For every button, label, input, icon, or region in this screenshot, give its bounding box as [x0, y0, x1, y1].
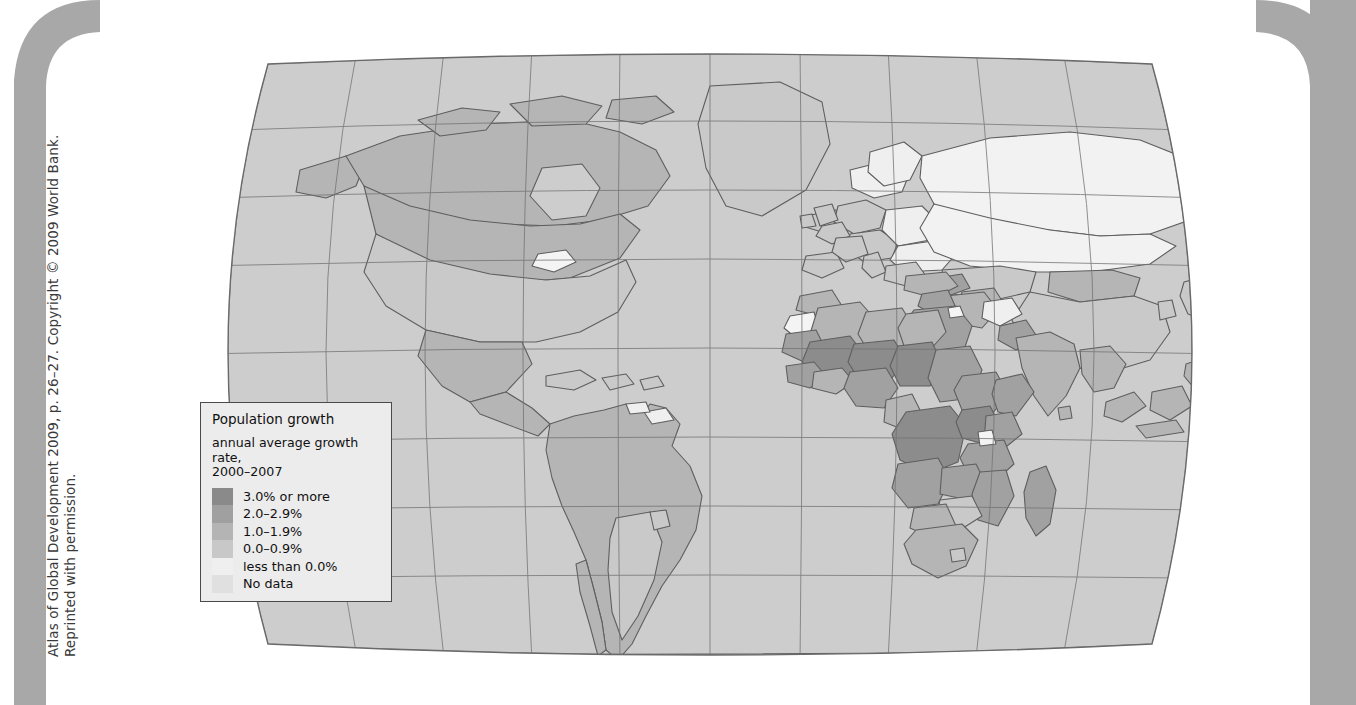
legend-entry: No data: [212, 575, 381, 593]
legend-subtitle-line1: annual average growth rate,: [212, 435, 358, 465]
legend-subtitle: annual average growth rate, 2000–2007: [212, 436, 381, 480]
legend-entry: 3.0% or more: [212, 488, 381, 506]
legend-label: 2.0–2.9%: [243, 505, 302, 523]
legend-swatch: [212, 575, 233, 593]
legend-label: 1.0–1.9%: [243, 523, 302, 541]
frame-left-margin: [0, 0, 14, 705]
legend-swatch: [212, 523, 233, 541]
legend-swatch: [212, 540, 233, 558]
legend-entry: 1.0–1.9%: [212, 523, 381, 541]
legend-swatch: [212, 505, 233, 523]
attribution-line-2: Reprinted with permission.: [62, 37, 79, 657]
frame-right-block: [1310, 0, 1356, 705]
legend-title: Population growth: [212, 412, 381, 427]
legend-entry: 0.0–0.9%: [212, 540, 381, 558]
legend-label: 3.0% or more: [243, 488, 330, 506]
attribution-line-1: Atlas of Global Development 2009, p. 26–…: [45, 37, 62, 657]
legend-swatch: [212, 488, 233, 506]
legend-entries: 3.0% or more2.0–2.9%1.0–1.9%0.0–0.9%less…: [212, 488, 381, 593]
legend-label: 0.0–0.9%: [243, 540, 302, 558]
legend-entry: 2.0–2.9%: [212, 505, 381, 523]
attribution-caption: Atlas of Global Development 2009, p. 26–…: [45, 37, 79, 657]
legend-label: No data: [243, 575, 293, 593]
legend-swatch: [212, 558, 233, 576]
legend-subtitle-line2: 2000–2007: [212, 464, 282, 479]
legend-label: less than 0.0%: [243, 558, 338, 576]
map-legend: Population growth annual average growth …: [200, 402, 392, 602]
legend-entry: less than 0.0%: [212, 558, 381, 576]
